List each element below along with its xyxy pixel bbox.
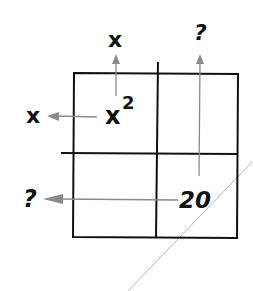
col2-top-label: ? [194, 20, 207, 45]
diagonal-line [128, 162, 252, 291]
vertical-divider [156, 62, 158, 238]
area-model-diagram: x ? x ? x 2 20 [0, 0, 253, 291]
arrow-up-icon [196, 54, 204, 64]
arrow-up-icon [112, 54, 120, 64]
arrow-left-icon [47, 112, 59, 121]
grid [61, 62, 238, 238]
cell-top-left-exponent: 2 [122, 92, 135, 113]
col1-top-label: x [108, 27, 122, 52]
cell-bottom-right: 20 [179, 187, 211, 213]
arrows [43, 54, 204, 204]
cell-top-left: x [105, 102, 121, 130]
arrow-left-icon [43, 194, 63, 204]
row2-left-label: ? [23, 185, 37, 213]
horizontal-divider [61, 153, 238, 154]
row1-left-label: x [26, 103, 40, 128]
